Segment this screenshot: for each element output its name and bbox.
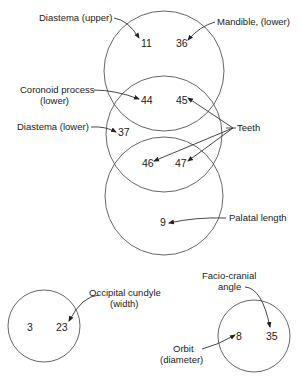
value-35: 35 [266, 330, 278, 342]
circle-top [104, 11, 224, 131]
arrow-teeth-47 [188, 128, 233, 161]
arrow-occipital [69, 295, 99, 321]
arrow-teeth-45 [188, 98, 233, 128]
value-11: 11 [141, 37, 152, 49]
label-diastema-lower: Diastema (lower) [17, 121, 89, 132]
arrow-diastema-lower [91, 127, 116, 132]
value-45: 45 [176, 94, 188, 106]
value-46: 46 [142, 157, 154, 169]
value-3: 3 [27, 321, 33, 333]
label-palatal-length: Palatal length [229, 212, 287, 223]
arrow-diastema-upper [114, 18, 139, 38]
label-mandible-lower: Mandible, (lower) [217, 16, 290, 27]
circle-orbit [218, 300, 290, 372]
label-teeth: Teeth [237, 122, 260, 133]
value-23: 23 [56, 321, 68, 333]
circle-occipital [8, 290, 80, 362]
value-37: 37 [118, 126, 130, 138]
label-diastema-upper: Diastema (upper) [39, 12, 112, 23]
value-44: 44 [141, 94, 153, 106]
label-coronoid-line2: (lower) [40, 95, 69, 106]
arrow-facio-cranial [245, 287, 270, 327]
label-facio-line2: angle [218, 281, 241, 292]
value-8: 8 [236, 330, 242, 342]
diagram-canvas: 11 36 44 45 37 46 47 9 3 23 8 35 Diastem… [0, 0, 301, 378]
arrow-coronoid [94, 90, 139, 99]
circle-bottom [105, 137, 223, 255]
label-facio-line1: Facio-cranial [202, 270, 256, 281]
label-orbit-line2: (diameter) [160, 354, 203, 365]
label-orbit-line1: Orbit [173, 343, 194, 354]
label-occipital-line2: (width) [110, 298, 139, 309]
value-47: 47 [175, 157, 187, 169]
label-coronoid-line1: Coronoid process [20, 84, 95, 95]
value-36: 36 [176, 37, 188, 49]
value-9: 9 [160, 216, 166, 228]
label-occipital-line1: Occipital cundyle [89, 287, 161, 298]
